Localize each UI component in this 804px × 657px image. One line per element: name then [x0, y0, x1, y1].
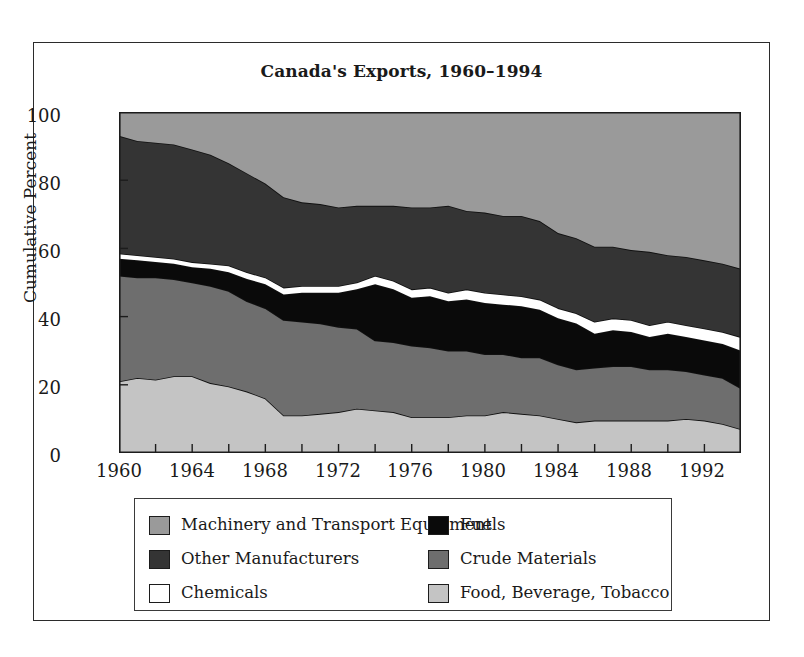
x-tick-label-1972: 1972 [303, 462, 373, 480]
x-tick-label-1976: 1976 [375, 462, 445, 480]
x-tick-label-1984: 1984 [521, 462, 591, 480]
x-tick-label-1960: 1960 [84, 462, 154, 480]
legend-item-food-beverage-tobacco[interactable]: Food, Beverage, Tobacco [428, 576, 669, 610]
legend-label-chemicals: Chemicals [181, 585, 268, 602]
legend-item-fuels[interactable]: Fuels [428, 508, 669, 542]
legend-label-other-manufacturers: Other Manufacturers [181, 551, 359, 568]
legend-column-right: FuelsCrude MaterialsFood, Beverage, Toba… [428, 508, 669, 610]
legend-swatch-chemicals [149, 584, 170, 603]
figure-frame: Canada's Exports, 1960–1994 100 80 60 40… [33, 42, 770, 621]
legend-label-fuels: Fuels [460, 517, 506, 534]
y-tick-label-20: 20 [1, 379, 61, 397]
legend-swatch-other-manufacturers [149, 550, 170, 569]
stacked-area-chart [119, 112, 741, 453]
legend-swatch-fuels [428, 516, 449, 535]
y-axis-label: Cumulative Percent [20, 108, 40, 328]
legend-label-food-beverage-tobacco: Food, Beverage, Tobacco [460, 585, 669, 602]
plot-area [119, 112, 741, 453]
x-tick-label-1992: 1992 [667, 462, 737, 480]
x-tick-label-1980: 1980 [448, 462, 518, 480]
legend-swatch-crude-materials [428, 550, 449, 569]
legend-swatch-food-beverage-tobacco [428, 584, 449, 603]
x-tick-label-1964: 1964 [157, 462, 227, 480]
x-tick-label-1968: 1968 [230, 462, 300, 480]
chart-title: Canada's Exports, 1960–1994 [34, 61, 769, 81]
area-series-group [119, 112, 741, 453]
x-tick-label-1988: 1988 [594, 462, 664, 480]
y-tick-label-0: 0 [1, 447, 61, 465]
legend-box: Machinery and Transport EquipmentOther M… [134, 498, 672, 611]
legend-label-crude-materials: Crude Materials [460, 551, 597, 568]
legend-swatch-machinery-and-transport-equipment [149, 516, 170, 535]
legend-item-crude-materials[interactable]: Crude Materials [428, 542, 669, 576]
